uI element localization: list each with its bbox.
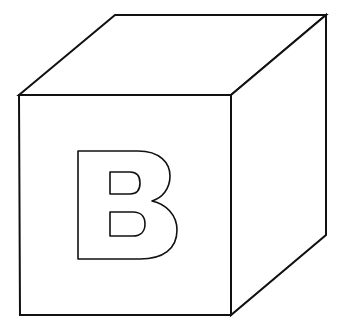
cube-drawing bbox=[0, 0, 346, 334]
cube-front-face bbox=[19, 95, 231, 315]
